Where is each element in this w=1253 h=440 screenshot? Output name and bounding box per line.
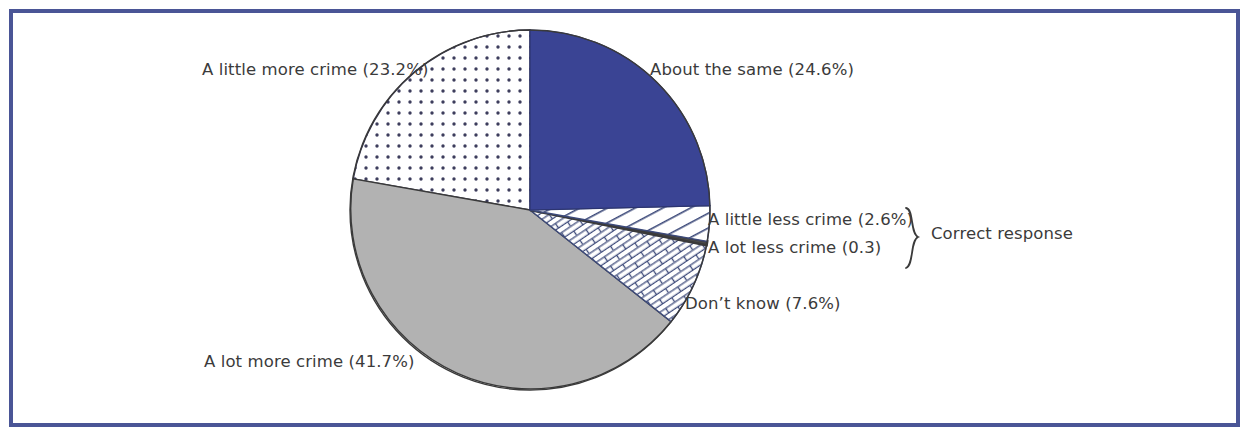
pie-chart: A little more crime (23.2%) About the sa…: [0, 0, 1253, 440]
pie-label-dont-know: Don’t know (7.6%): [685, 294, 841, 313]
pie-chart-svg: [0, 0, 1253, 440]
pie-slice-about-the-same[interactable]: [530, 30, 710, 210]
pie-label-a-lot-more-crime: A lot more crime (41.7%): [204, 352, 415, 371]
figure-container: A little more crime (23.2%) About the sa…: [0, 0, 1253, 440]
pie-label-a-lot-less-crime: A lot less crime (0.3): [708, 238, 881, 257]
pie-label-about-the-same: About the same (24.6%): [650, 60, 854, 79]
pie-label-a-little-less-crime: A little less crime (2.6%): [708, 210, 913, 229]
pie-label-a-little-more-crime: A little more crime (23.2%): [202, 60, 429, 79]
correct-response-annotation: Correct response: [931, 224, 1073, 243]
